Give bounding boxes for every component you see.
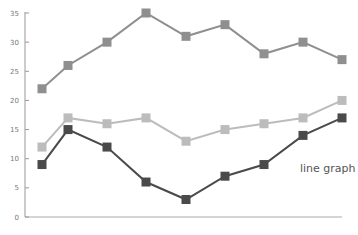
data-point-marker xyxy=(142,9,151,18)
line-series-1 xyxy=(38,9,347,94)
data-point-marker xyxy=(299,113,308,122)
data-point-marker xyxy=(260,119,269,128)
y-tick-label: 25 xyxy=(10,68,19,76)
data-point-marker xyxy=(64,113,73,122)
data-point-marker xyxy=(338,96,347,105)
data-point-marker xyxy=(142,178,151,187)
data-point-marker xyxy=(182,32,191,41)
data-point-marker xyxy=(221,172,230,181)
data-point-marker xyxy=(103,38,112,47)
data-point-marker xyxy=(38,160,47,169)
axes: 05101520253035 xyxy=(10,10,342,222)
data-point-marker xyxy=(38,84,47,93)
data-point-marker xyxy=(103,143,112,152)
chart-annotation: line graph xyxy=(300,162,356,175)
data-point-marker xyxy=(182,195,191,204)
y-tick-label: 10 xyxy=(10,155,19,163)
y-tick-label: 15 xyxy=(10,126,19,134)
line-series-3 xyxy=(38,113,347,204)
line-chart: 05101520253035 xyxy=(0,0,358,235)
data-point-marker xyxy=(221,20,230,29)
y-tick-label: 20 xyxy=(10,97,19,105)
data-point-marker xyxy=(260,49,269,58)
data-point-marker xyxy=(338,55,347,64)
y-tick-label: 0 xyxy=(15,214,19,222)
data-point-marker xyxy=(299,38,308,47)
data-point-marker xyxy=(38,143,47,152)
data-point-marker xyxy=(142,113,151,122)
data-point-marker xyxy=(103,119,112,128)
data-point-marker xyxy=(64,61,73,70)
data-point-marker xyxy=(260,160,269,169)
y-tick-label: 5 xyxy=(15,184,19,192)
data-point-marker xyxy=(299,131,308,140)
line-series-2 xyxy=(38,96,347,152)
data-point-marker xyxy=(64,125,73,134)
y-tick-label: 35 xyxy=(10,10,19,18)
y-tick-label: 30 xyxy=(10,39,19,47)
data-point-marker xyxy=(182,137,191,146)
data-point-marker xyxy=(221,125,230,134)
data-point-marker xyxy=(338,113,347,122)
